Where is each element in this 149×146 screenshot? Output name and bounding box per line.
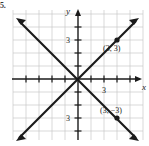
- data-point-3-negative-3: [114, 115, 119, 120]
- y-tick-label-negative-3: 3: [66, 114, 70, 123]
- point-label-3-negative-3: (3, −3): [100, 106, 122, 115]
- x-axis-label: x: [141, 82, 146, 92]
- x-tick-label-positive-3: 3: [102, 86, 106, 95]
- y-tick-label-positive-3: 3: [66, 36, 70, 45]
- graph-figure: 5.: [0, 0, 149, 146]
- data-point-3-3: [114, 37, 119, 42]
- y-axis-label: y: [65, 6, 70, 16]
- y-axis: [75, 9, 82, 140]
- coordinate-plane-graphic: y x 3 3 3 (3, 3) (3, −3): [0, 0, 149, 146]
- point-label-3-3: (3, 3): [103, 44, 121, 53]
